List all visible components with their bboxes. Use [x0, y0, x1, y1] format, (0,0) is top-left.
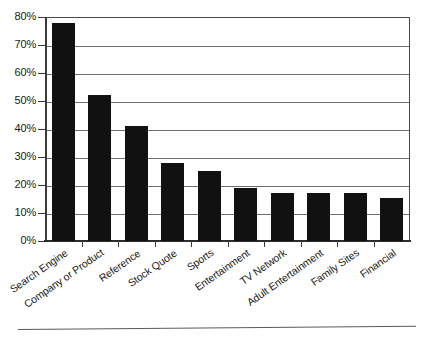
y-axis-tick-mark	[38, 73, 45, 74]
bar	[161, 163, 184, 241]
y-axis-tick-label: 60%	[0, 67, 36, 78]
bar	[198, 171, 221, 241]
bar-series	[45, 17, 410, 241]
y-axis-tick-mark	[38, 17, 45, 18]
y-axis-tick-text: 40%	[0, 123, 36, 134]
y-axis-tick-mark	[38, 185, 45, 186]
y-axis-tick-label: 30%	[0, 151, 36, 162]
bar-chart-figure: 0%10%20%30%40%50%60%70%80% Search Engine…	[0, 0, 425, 343]
bar	[344, 193, 367, 241]
y-axis-tick-mark	[38, 213, 45, 214]
y-axis-tick-text: 30%	[0, 151, 36, 162]
y-axis-tick-mark	[38, 129, 45, 130]
bar	[307, 193, 330, 241]
bar	[88, 95, 111, 241]
x-axis-category-label: Financial	[358, 247, 398, 280]
bar	[380, 198, 403, 241]
y-axis-tick-mark	[38, 45, 45, 46]
y-axis-tick-mark	[38, 101, 45, 102]
y-axis-tick-text: 60%	[0, 67, 36, 78]
y-axis-tick-label: 10%	[0, 207, 36, 218]
bar	[125, 126, 148, 241]
y-axis-tick-label: 80%	[0, 11, 36, 22]
y-axis-tick-label: 20%	[0, 179, 36, 190]
y-axis-tick-label: 40%	[0, 123, 36, 134]
y-axis-tick-label: 70%	[0, 39, 36, 50]
y-axis-tick-text: 20%	[0, 179, 36, 190]
y-axis-tick-mark	[38, 157, 45, 158]
y-axis-tick-text: 80%	[0, 11, 36, 22]
x-axis-category-labels: Search EngineCompany or ProductReference…	[0, 241, 425, 331]
bar	[271, 193, 294, 241]
y-axis-tick-text: 70%	[0, 39, 36, 50]
bar	[52, 23, 75, 241]
y-axis-tick-label: 50%	[0, 95, 36, 106]
bar	[234, 188, 257, 241]
y-axis-tick-text: 50%	[0, 95, 36, 106]
y-axis-tick-text: 10%	[0, 207, 36, 218]
